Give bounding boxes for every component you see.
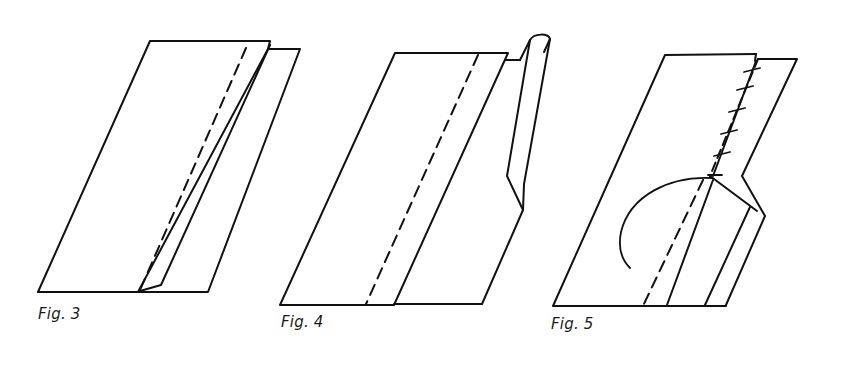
fig4-front-panel [280, 53, 508, 305]
fig5-hem-line-1 [667, 180, 713, 305]
figure-4-drawing [280, 35, 550, 305]
fig5-label: Fig. 5 [551, 315, 594, 333]
fig4-label: Fig. 4 [281, 313, 324, 331]
fig5-front-panel [553, 54, 756, 306]
figure-3-drawing [38, 41, 300, 292]
fig5-front-right-edge [755, 54, 756, 61]
fig4-rolled-edge-inner [507, 40, 530, 210]
fig4-back-lower-edge [394, 210, 523, 304]
fig5-back-layer [726, 59, 797, 305]
fig4-stitch-line [366, 55, 478, 304]
fig5-fold-flap [710, 176, 757, 211]
figure-5-drawing [553, 54, 797, 306]
fig5-hem-line-2 [705, 207, 750, 305]
fig4-rolled-edge-outer [523, 39, 550, 210]
fig3-stitch-line [140, 48, 246, 290]
fig3-label: Fig. 3 [38, 305, 81, 323]
fig3-front-panel [38, 41, 270, 292]
illustration-canvas [0, 0, 842, 366]
fig4-rolled-edge-top [520, 35, 550, 60]
fig3-back-layer [138, 49, 300, 292]
